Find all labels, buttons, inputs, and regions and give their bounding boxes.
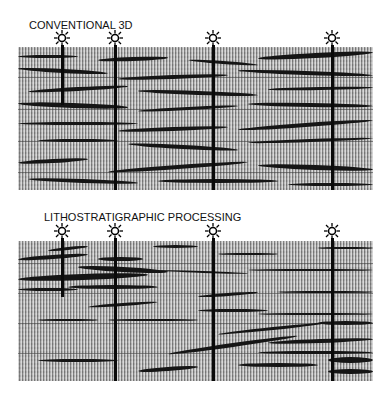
seismic-reflector [258,351,373,354]
grid-line [18,263,373,264]
seismic-reflector [318,321,373,325]
seismic-reflector [218,253,278,255]
well-line [61,238,64,297]
seismic-reflector [138,89,258,97]
sun-well-symbol-icon [205,223,221,239]
seismic-reflector [328,357,373,363]
seismic-reflector [48,245,88,252]
sun-well-symbol-icon [324,30,340,46]
well-line [212,45,215,190]
seismic-reflector [108,319,198,321]
seismic-reflector [318,247,373,249]
seismic-reflector [198,291,258,298]
seismic-panel-lithostratigraphic-processing [18,241,373,381]
sun-well-symbol-icon [107,30,123,46]
seismic-reflector [188,59,258,67]
seismic-reflector [238,363,318,367]
seismic-reflector [88,301,158,309]
seismic-reflector [258,50,373,61]
sun-well-symbol-icon [54,223,70,239]
sun-well-symbol-icon [54,30,70,46]
seismic-reflector [18,122,138,125]
seismic-reflector [158,179,278,183]
well-line [331,45,334,190]
seismic-reflector [198,309,268,312]
seismic-reflector [328,369,373,374]
sun-well-symbol-icon [205,30,221,46]
sun-well-symbol-icon [324,223,340,239]
grid-line [18,293,373,294]
seismic-reflector [238,118,373,131]
seismic-reflector [268,86,373,91]
seismic-reflector [158,269,248,274]
seismic-panel-conventional-3d [18,47,373,190]
seismic-reflector [153,245,198,248]
well-line [331,238,334,381]
seismic-reflector [248,269,373,271]
seismic-reflector [18,272,148,283]
seismic-reflector [258,163,373,172]
seismic-reflector [28,177,138,185]
seismic-reflector [248,102,373,108]
well-line [114,45,117,190]
panel-title-lithostratigraphic-processing: LITHOSTRATIGRAPHIC PROCESSING [44,211,241,223]
seismic-reflector [138,365,198,373]
seismic-reflector [38,359,118,362]
well-line [61,45,64,105]
seismic-reflector [98,257,143,261]
seismic-reflector [18,288,78,291]
seismic-reflector [18,157,88,165]
seismic-reflector [18,253,88,262]
seismic-reflector [68,285,158,289]
seismic-reflector [38,139,118,142]
seismic-reflector [18,55,78,58]
grid-line [18,172,373,173]
well-line [212,238,215,381]
sun-well-symbol-icon [107,223,123,239]
well-line [114,238,117,381]
seismic-reflector [128,142,238,152]
seismic-reflector [258,313,373,315]
seismic-reflector [98,56,168,62]
seismic-reflector [278,291,373,293]
seismic-reflector [38,319,98,321]
